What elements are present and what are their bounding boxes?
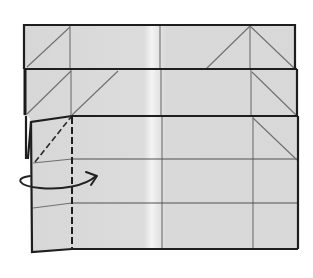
origami-diagram (0, 0, 313, 278)
top-strip-layer (24, 25, 295, 69)
middle-strip-layer (24, 69, 297, 116)
bottom-panel-layer (28, 116, 298, 252)
